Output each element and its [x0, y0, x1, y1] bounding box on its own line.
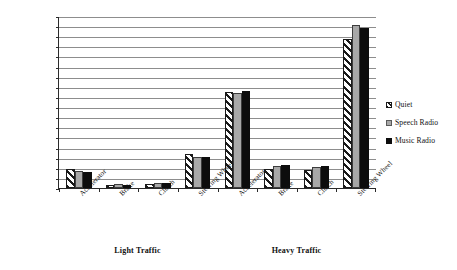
legend-label: Music Radio — [395, 136, 435, 145]
bar-series-container — [59, 17, 376, 188]
bar-music — [242, 91, 251, 188]
legend-item: Speech Radio — [386, 118, 456, 127]
legend-label: Quiet — [395, 100, 412, 109]
x-axis-label-slot: Accelerator — [217, 190, 257, 242]
bar-speech — [193, 157, 202, 188]
bar-quiet — [304, 170, 313, 188]
chart-legend: QuietSpeech RadioMusic Radio — [386, 100, 456, 154]
bar-group — [218, 17, 258, 188]
bar-group — [257, 17, 297, 188]
black-swatch-icon — [386, 138, 392, 144]
hatch-swatch-icon — [386, 102, 392, 108]
gray-swatch-icon — [386, 120, 392, 126]
bar-chart: Frequency Of Usage 010203040506070809010… — [0, 0, 457, 270]
bar-group — [336, 17, 376, 188]
bar-quiet — [185, 154, 194, 188]
x-axis-labels: AcceleratorBrakeClutchSteering WheelAcce… — [58, 190, 376, 242]
bar-speech — [312, 167, 321, 188]
bar-group — [297, 17, 337, 188]
bar-speech — [233, 93, 242, 188]
bar-quiet — [66, 169, 75, 188]
plot-area: 0102030405060708090100110120130140150160… — [58, 17, 376, 189]
group-caption: Light Traffic — [58, 246, 217, 255]
bar-speech — [75, 171, 84, 188]
bar-group — [99, 17, 139, 188]
legend-label: Speech Radio — [395, 118, 438, 127]
bar-group — [178, 17, 218, 188]
bar-speech — [273, 166, 282, 188]
group-caption: Heavy Traffic — [217, 246, 376, 255]
bar-quiet — [145, 184, 154, 188]
bar-quiet — [343, 39, 352, 188]
bar-group — [138, 17, 178, 188]
bar-group — [59, 17, 99, 188]
legend-item: Quiet — [386, 100, 456, 109]
bar-speech — [352, 25, 361, 188]
x-axis-label-slot: Brake — [257, 190, 297, 242]
bar-quiet — [106, 185, 115, 188]
x-axis-label-slot: Accelerator — [58, 190, 98, 242]
bar-music — [360, 28, 369, 188]
x-axis-label-slot: Clutch — [138, 190, 178, 242]
x-axis-label-slot: Steering Wheel — [177, 190, 217, 242]
x-axis-label-slot: Clutch — [297, 190, 337, 242]
legend-item: Music Radio — [386, 136, 456, 145]
x-axis-label-slot: Steering Wheel — [336, 190, 376, 242]
x-axis-label-slot: Brake — [98, 190, 138, 242]
